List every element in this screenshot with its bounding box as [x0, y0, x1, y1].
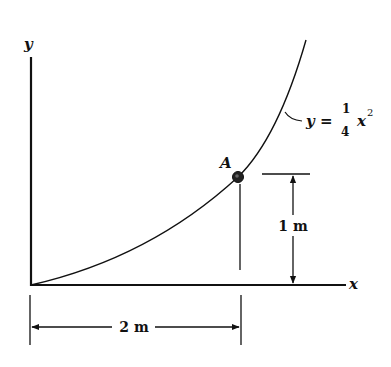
svg-text:2: 2 [367, 107, 373, 118]
svg-text:x: x [356, 112, 367, 130]
point-a-label: A [218, 154, 232, 172]
y-axis-label: y [23, 35, 34, 53]
parabola-curve [31, 40, 306, 285]
svg-text:4: 4 [341, 125, 349, 139]
vertical-dim-label: 1 m [278, 218, 308, 234]
horizontal-dim-label: 2 m [119, 319, 149, 335]
svg-text:1: 1 [342, 102, 350, 116]
svg-text:y =: y = [305, 112, 333, 130]
diagram-canvas: y x y = 1 4 x 2 A 1 m 2 m [0, 0, 391, 367]
equation-leader [285, 112, 302, 121]
curve-equation: y = 1 4 x 2 [305, 102, 373, 139]
x-axis-label: x [348, 275, 359, 293]
